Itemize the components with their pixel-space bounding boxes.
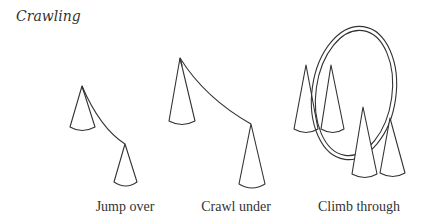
crawling-illustrations [0, 0, 430, 222]
cone-icon [321, 65, 344, 133]
cone-icon [239, 124, 265, 188]
crawl-under-label: Crawl under [201, 199, 271, 215]
cone-icon [114, 144, 137, 186]
climb-through-label: Climb through [318, 199, 400, 215]
cone-icon [169, 58, 195, 125]
jump-over-illustration [70, 86, 137, 186]
climb-through-illustration [294, 21, 405, 178]
crawl-under-illustration [169, 58, 265, 188]
jump-over-label: Jump over [96, 199, 155, 215]
cone-icon [70, 86, 95, 131]
